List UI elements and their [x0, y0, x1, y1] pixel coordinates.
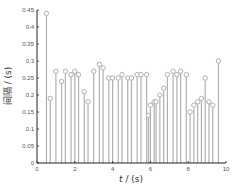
stem-point: [195, 100, 199, 163]
y-tick-label: 0.3: [26, 58, 35, 64]
stem-point: [107, 76, 111, 163]
stem-point: [69, 72, 73, 163]
stem-point: [184, 72, 188, 163]
stem-point: [76, 72, 80, 163]
stem-point: [92, 69, 96, 163]
stem-point: [188, 110, 192, 163]
stem-point: [101, 66, 105, 163]
stem-point: [165, 72, 169, 163]
x-tick-label: 0: [35, 166, 39, 172]
stem-point: [203, 76, 207, 163]
y-tick-label: 0.4: [26, 24, 35, 30]
stem-point: [139, 72, 143, 163]
stem-point: [86, 100, 90, 163]
y-tick-label: 0.45: [22, 7, 34, 13]
y-tick-label: 0.25: [22, 75, 34, 81]
stem-point: [129, 76, 133, 163]
stem-chart: 00.050.10.150.20.250.30.350.40.450246810…: [0, 0, 236, 187]
stem-point: [97, 62, 101, 163]
stem-point: [158, 93, 162, 163]
x-tick-label: 10: [223, 166, 230, 172]
stem-point: [63, 69, 67, 163]
stem-point: [207, 100, 211, 163]
y-axis-label: 间隔 / (s): [2, 67, 13, 105]
stem-point: [54, 69, 58, 163]
stem-point: [116, 76, 120, 163]
axes: 00.050.10.150.20.250.30.350.40.450246810: [22, 7, 230, 172]
stem-point: [73, 69, 77, 163]
y-tick-label: 0.2: [26, 92, 35, 98]
stem-point: [216, 59, 220, 163]
y-tick-label: 0.35: [22, 41, 34, 47]
y-tick-label: 0.1: [26, 126, 35, 132]
x-tick-label: 2: [73, 166, 77, 172]
data-stems: [44, 11, 220, 163]
x-tick-label: 8: [187, 166, 191, 172]
stem-point: [161, 86, 165, 163]
x-tick-label: 6: [149, 166, 153, 172]
stem-point: [48, 96, 52, 163]
stem-point: [120, 72, 124, 163]
stem-point: [178, 69, 182, 163]
stem-point: [126, 76, 130, 163]
stem-point: [211, 103, 215, 163]
stem-point: [59, 79, 63, 163]
stem-point: [171, 69, 175, 163]
x-tick-label: 4: [111, 166, 115, 172]
stem-point: [199, 96, 203, 163]
stem-point: [135, 72, 139, 163]
y-tick-label: 0: [31, 160, 35, 166]
stem-point: [44, 11, 48, 163]
stem-point: [175, 72, 179, 163]
stem-point: [110, 76, 114, 163]
x-axis-label: t / (s): [119, 174, 143, 184]
y-tick-label: 0.05: [22, 143, 34, 149]
y-tick-label: 0.15: [22, 109, 34, 115]
